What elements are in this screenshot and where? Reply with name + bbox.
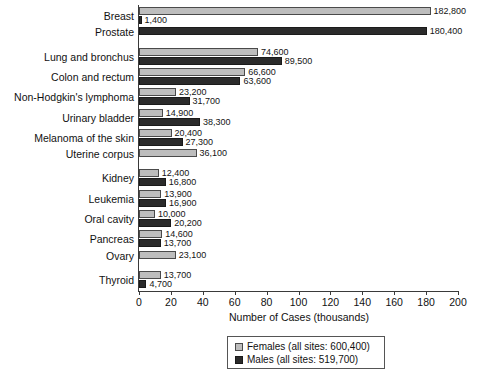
bar-rect-female [139, 48, 258, 56]
bar-value-label: 16,800 [166, 177, 197, 187]
x-tick-label: 120 [322, 296, 340, 308]
bar-value-label: 36,100 [197, 148, 228, 158]
bar-value-label: 4,700 [146, 279, 172, 289]
bar-rect-female [139, 271, 161, 279]
x-tick-label: 60 [229, 296, 241, 308]
bar-row: Leukemia13,90016,900 [0, 190, 485, 208]
bar-value-label: 89,500 [282, 56, 313, 66]
cancer-incidence-bar-chart: Breast182,8001,400Prostate180,400Lung an… [0, 0, 485, 380]
bar-row: Uterine corpus36,100 [0, 149, 485, 167]
x-tick-mark [330, 291, 331, 295]
category-label: Urinary bladder [0, 113, 138, 124]
x-tick-mark [203, 291, 204, 295]
bar-value-label: 38,300 [200, 117, 231, 127]
bar-value-label: 27,300 [183, 137, 214, 147]
bar-value-label: 16,900 [166, 198, 197, 208]
x-tick-label: 40 [197, 296, 209, 308]
category-label: Prostate [0, 27, 138, 38]
x-tick-label: 180 [417, 296, 435, 308]
bar-row: Kidney12,40016,800 [0, 169, 485, 187]
bar-value-label: 1,400 [142, 15, 168, 25]
x-tick-mark [362, 291, 363, 295]
category-label: Thyroid [0, 275, 138, 286]
bar-rect-female [139, 190, 161, 198]
x-tick-mark [458, 291, 459, 295]
category-label: Oral cavity [0, 214, 138, 225]
x-tick-label: 0 [136, 296, 142, 308]
legend-label-females: Females (all sites: 600,400) [247, 341, 370, 352]
bar-rect-male [139, 138, 183, 146]
bar-value-label: 63,600 [240, 76, 271, 86]
bar-value-label: 180,400 [427, 26, 463, 36]
x-axis-title: Number of Cases (thousands) [139, 311, 459, 323]
bar-rect-female [139, 169, 159, 177]
bar-rect-female [139, 88, 176, 96]
bar-rect-male [139, 77, 240, 85]
category-label: Breast [0, 11, 138, 22]
bar-value-label: 182,800 [431, 6, 467, 16]
bar-row: Urinary bladder14,90038,300 [0, 109, 485, 127]
legend-label-males: Males (all sites: 519,700) [247, 354, 358, 365]
bar-rect-male [139, 280, 146, 288]
bar-rect-female [139, 251, 176, 259]
bar-rect-male [139, 239, 161, 247]
bar-rect-male [139, 199, 166, 207]
bar-value-label: 23,100 [176, 250, 207, 260]
x-tick-mark [235, 291, 236, 295]
x-tick-label: 20 [165, 296, 177, 308]
bar-row: Breast182,8001,400 [0, 7, 485, 25]
x-tick-label: 200 [449, 296, 467, 308]
plot-area: Breast182,8001,400Prostate180,400Lung an… [0, 0, 485, 300]
bar-rect-female [139, 68, 245, 76]
bar-rect-male [139, 178, 166, 186]
x-tick-mark [139, 291, 140, 295]
bar-value-label: 20,200 [171, 218, 202, 228]
category-label: Leukemia [0, 194, 138, 205]
bar-row: Non-Hodgkin's lymphoma23,20031,700 [0, 88, 485, 106]
bar-row: Pancreas14,60013,700 [0, 230, 485, 248]
bar-rect-female [139, 149, 197, 157]
category-label: Pancreas [0, 234, 138, 245]
bar-rect-male [139, 219, 171, 227]
category-label: Kidney [0, 173, 138, 184]
x-tick-label: 80 [261, 296, 273, 308]
bar-row: Colon and rectum66,60063,600 [0, 68, 485, 86]
x-tick-mark [426, 291, 427, 295]
bar-rect-male [139, 27, 427, 35]
x-tick-mark [299, 291, 300, 295]
x-tick-mark [171, 291, 172, 295]
x-tick-mark [267, 291, 268, 295]
category-label: Lung and bronchus [0, 52, 138, 63]
bar-rect-female [139, 210, 155, 218]
x-tick-label: 160 [385, 296, 403, 308]
category-label: Colon and rectum [0, 72, 138, 83]
bar-row: Ovary23,100 [0, 251, 485, 269]
bar-rect-female [139, 230, 162, 238]
chart-legend: Females (all sites: 600,400) Males (all … [227, 336, 385, 369]
bar-value-label: 14,900 [163, 108, 194, 118]
legend-swatch-males-icon [235, 356, 243, 364]
category-label: Non-Hodgkin's lymphoma [0, 92, 138, 103]
x-tick-label: 140 [354, 296, 372, 308]
legend-item-males: Males (all sites: 519,700) [235, 353, 384, 366]
x-tick-label: 100 [290, 296, 308, 308]
bar-rect-female [139, 129, 172, 137]
x-tick-mark [394, 291, 395, 295]
bar-rect-male [139, 118, 200, 126]
category-label: Ovary [0, 251, 138, 262]
category-label: Melanoma of the skin [0, 133, 138, 144]
bar-value-label: 31,700 [190, 96, 221, 106]
bar-row: Lung and bronchus74,60089,500 [0, 48, 485, 66]
bar-rect-female [139, 109, 163, 117]
bar-row: Melanoma of the skin20,40027,300 [0, 129, 485, 147]
bar-rect-male [139, 97, 190, 105]
bar-rect-male [139, 57, 282, 65]
bar-rect-female [139, 7, 431, 15]
legend-item-females: Females (all sites: 600,400) [235, 340, 384, 353]
bar-row: Oral cavity10,00020,200 [0, 210, 485, 228]
category-label: Uterine corpus [0, 149, 138, 160]
bar-row: Thyroid13,7004,700 [0, 271, 485, 289]
legend-swatch-females-icon [235, 343, 243, 351]
bar-value-label: 13,700 [161, 238, 192, 248]
bar-row: Prostate180,400 [0, 27, 485, 45]
